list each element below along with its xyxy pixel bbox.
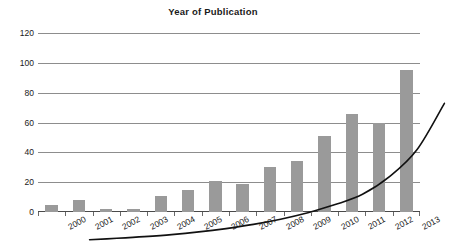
x-tick-label: 2006 (230, 214, 251, 232)
y-tick-label: 0 (4, 207, 34, 217)
x-axis-labels: 2000200120022003200420052006200720082009… (38, 214, 420, 242)
y-tick-label: 100 (4, 58, 34, 68)
y-tick-label: 120 (4, 28, 34, 38)
x-tick-label: 2012 (393, 214, 414, 232)
y-tick-label: 20 (4, 177, 34, 187)
y-tick-label: 60 (4, 118, 34, 128)
x-tick-label: 2003 (148, 214, 169, 232)
plot-area (38, 33, 420, 212)
x-tick-label: 2005 (202, 214, 223, 232)
y-tick-label: 40 (4, 147, 34, 157)
chart-title: Year of Publication (0, 6, 426, 17)
y-tick-label: 80 (4, 88, 34, 98)
x-tick-label: 2001 (93, 214, 114, 232)
x-tick-label: 2007 (257, 214, 278, 232)
x-tick-label: 2004 (175, 214, 196, 232)
x-tick-label: 2009 (311, 214, 332, 232)
y-axis-labels: 020406080100120 (0, 33, 34, 212)
x-tick-label: 2008 (284, 214, 305, 232)
x-tick-label: 2010 (339, 214, 360, 232)
x-tick-label: 2000 (66, 214, 87, 232)
x-tick-label: 2002 (120, 214, 141, 232)
x-tick-label: 2011 (366, 214, 387, 231)
bar (45, 205, 58, 212)
